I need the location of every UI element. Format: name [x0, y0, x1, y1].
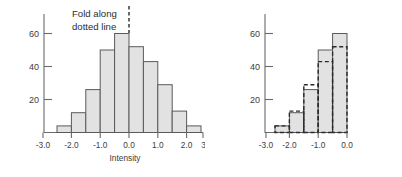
x-tick-label-n20-right: -2.0 — [282, 140, 297, 150]
x-tick-label-n10-right: -1.0 — [311, 140, 326, 150]
bar-left-9 — [172, 111, 186, 132]
bar-right-solid-5 — [333, 34, 347, 133]
y-tick-label-20-left: 20 — [29, 95, 39, 105]
bar-left-7 — [143, 62, 157, 133]
bar-right-solid-4 — [318, 50, 332, 133]
folded-histogram-svg: 60 40 20 -3.0 -2.0 -1.0 0. — [205, 0, 402, 177]
bar-left-3 — [86, 90, 100, 133]
bar-right-solid-2 — [289, 113, 303, 133]
x-tick-label-10-left: 1.0 — [152, 140, 164, 150]
bar-left-8 — [158, 85, 172, 133]
y-tick-label-60-left: 60 — [29, 29, 39, 39]
x-tick-label-n20-left: -2.0 — [64, 140, 79, 150]
y-tick-label-40-right: 40 — [250, 62, 260, 72]
x-tick-label-00-left: 0.0 — [123, 140, 135, 150]
folded-histogram-panel: 60 40 20 -3.0 -2.0 -1.0 0. — [205, 0, 402, 177]
y-tick-label-60-right: 60 — [250, 29, 260, 39]
bar-left-10 — [187, 126, 201, 133]
x-tick-label-20-left: 2.0 — [181, 140, 193, 150]
unfolded-histogram-svg: 60 40 20 -3.0 — [0, 0, 205, 177]
y-tick-label-40-left: 40 — [29, 62, 39, 72]
fold-annotation-line-2: dotted line — [72, 21, 116, 32]
bar-left-5 — [115, 34, 129, 133]
bar-left-4 — [100, 50, 114, 133]
x-tick-label-n30-right: -3.0 — [259, 140, 274, 150]
bar-left-6 — [129, 47, 143, 133]
y-tick-label-20-right: 20 — [250, 95, 260, 105]
fold-histogram-figure: 60 40 20 -3.0 — [0, 0, 402, 177]
x-tick-label-n30-left: -3.0 — [36, 140, 51, 150]
fold-annotation-line-1: Fold along — [72, 8, 117, 19]
unfolded-histogram-panel: 60 40 20 -3.0 — [0, 0, 205, 177]
bar-left-2 — [71, 113, 85, 133]
bar-left-1 — [57, 126, 71, 133]
bar-right-solid-1 — [275, 126, 289, 133]
x-tick-label-00-right: 0.0 — [341, 140, 353, 150]
x-axis-title-left: Intensity — [110, 153, 142, 163]
x-tick-label-n10-left: -1.0 — [93, 140, 108, 150]
bar-right-solid-3 — [304, 90, 318, 133]
